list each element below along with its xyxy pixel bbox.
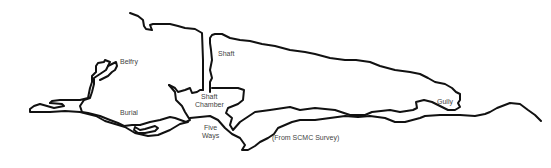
cave-survey-map [0,0,551,168]
label-source: (From SCMC Survey) [272,134,339,142]
label-shaft-chamber-line2: Chamber [195,101,224,109]
label-belfry: Belfry [120,58,138,66]
passage-five-ways-lower [190,103,541,150]
passage-belfry [100,62,117,80]
label-five-ways-line1: Five [204,124,217,132]
label-burial: Burial [120,109,138,117]
passage-shaft-east [210,34,460,130]
label-gully: Gully [437,98,453,106]
label-shaft: Shaft [218,50,234,58]
passage-burial-loop [134,126,158,133]
passage-north-wall [130,13,203,90]
label-five-ways-line2: Ways [202,132,219,140]
label-shaft-chamber-line1: Shaft [201,93,217,101]
